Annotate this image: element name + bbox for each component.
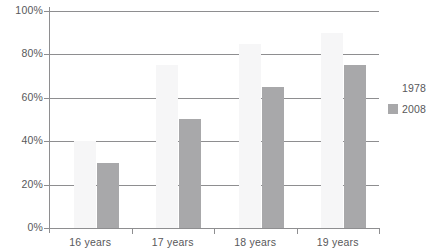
bar-group: [214, 11, 297, 228]
bar-group: [297, 11, 380, 228]
bar-group: [132, 11, 215, 228]
x-axis-tick: [379, 228, 380, 234]
y-axis-tick-label: 20%: [21, 178, 43, 190]
bar-2008-19-years: [344, 65, 366, 228]
y-axis-tick-label: 0%: [27, 221, 43, 233]
bar-1978-17-years: [156, 65, 178, 228]
bar-2008-16-years: [97, 163, 119, 228]
legend-swatch-icon: [388, 83, 398, 93]
legend-swatch-icon: [388, 104, 398, 114]
y-axis-tick: [44, 228, 49, 229]
x-axis-category-label: 19 years: [298, 236, 378, 248]
legend-label: 2008: [402, 103, 426, 115]
x-axis-tick: [214, 228, 215, 234]
y-axis-tick-label: 100%: [15, 4, 43, 16]
bar-1978-16-years: [74, 141, 96, 228]
legend-item-2008[interactable]: 2008: [388, 101, 438, 117]
bar-2008-17-years: [179, 119, 201, 228]
x-axis-tick: [297, 228, 298, 234]
bar-chart: 0%20%40%60%80%100% 16 years17 years18 ye…: [0, 0, 438, 252]
y-axis-tick-label: 60%: [21, 91, 43, 103]
x-axis-category-label: 16 years: [50, 236, 130, 248]
legend-item-1978[interactable]: 1978: [388, 80, 438, 96]
x-axis-category-label: 18 years: [215, 236, 295, 248]
bar-1978-19-years: [321, 33, 343, 228]
y-axis-tick-label: 80%: [21, 47, 43, 59]
legend-label: 1978: [402, 82, 426, 94]
bar-1978-18-years: [239, 44, 261, 228]
bar-2008-18-years: [262, 87, 284, 228]
legend: 19782008: [388, 80, 438, 122]
plot-area: [49, 11, 379, 228]
bar-group: [49, 11, 132, 228]
x-axis-category-label: 17 years: [133, 236, 213, 248]
y-axis-tick-label: 40%: [21, 134, 43, 146]
x-axis-tick: [132, 228, 133, 234]
